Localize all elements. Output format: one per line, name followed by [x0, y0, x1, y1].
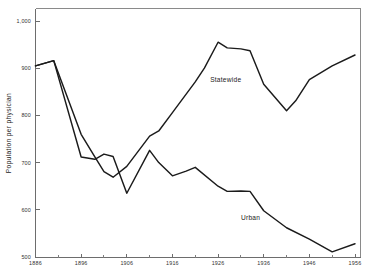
x-tick-label-1886: 1886 [29, 260, 42, 266]
y-axis-ticks: 5006007008009001,000 [17, 18, 40, 260]
axis-left-bottom [36, 9, 361, 258]
series-label-urban: Urban [241, 214, 260, 221]
y-tick-label-800: 800 [21, 112, 31, 118]
x-tick-label-1936: 1936 [257, 260, 270, 266]
population-per-physician-chart: 5006007008009001,000 1886189619061916192… [0, 0, 369, 266]
x-tick-label-1906: 1906 [120, 260, 133, 266]
x-tick-label-1946: 1946 [303, 260, 316, 266]
chart-container: 5006007008009001,000 1886189619061916192… [0, 0, 369, 266]
y-tick-label-700: 700 [21, 160, 31, 166]
y-axis-title: Population per physician [5, 93, 13, 173]
series-line-urban [36, 61, 356, 252]
x-tick-label-1896: 1896 [75, 260, 88, 266]
y-tick-label-900: 900 [21, 65, 31, 71]
x-axis-ticks: 18861896190619161926193619461956 [29, 254, 361, 266]
x-tick-label-1916: 1916 [166, 260, 179, 266]
frame-top-right [36, 9, 361, 258]
data-series-group [36, 42, 356, 252]
plot-frame [36, 9, 361, 258]
x-tick-label-1956: 1956 [349, 260, 362, 266]
y-tick-label-1000: 1,000 [17, 18, 32, 24]
series-annotations: StatewideUrban [210, 76, 260, 221]
y-tick-label-600: 600 [21, 207, 31, 213]
series-label-statewide: Statewide [210, 76, 241, 83]
x-tick-label-1926: 1926 [212, 260, 225, 266]
